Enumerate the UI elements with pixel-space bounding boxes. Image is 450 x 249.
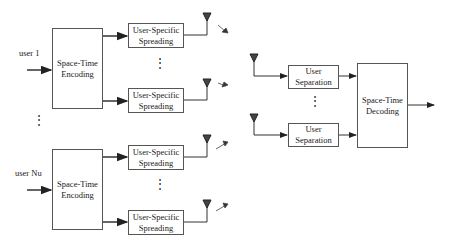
space-time-encoding-box-2: Space-Time Encoding: [52, 149, 103, 230]
ellipsis-dots: ⋮: [154, 56, 166, 71]
antenna-icons: [203, 13, 258, 208]
ellipsis-dots-users: ⋮: [33, 113, 45, 128]
ellipsis-dots: ⋮: [154, 177, 166, 192]
user-specific-spreading-box-2a: User-Specific Spreading: [128, 145, 184, 170]
user-specific-spreading-box-1b: User-Specific Spreading: [128, 88, 184, 113]
user-1-label: user 1: [19, 48, 40, 58]
space-time-encoding-box-1: Space-Time Encoding: [52, 28, 103, 109]
ellipsis-dots: ⋮: [309, 94, 321, 109]
user-separation-box-2: User Separation: [288, 123, 339, 147]
user-nu-label: user Nu: [15, 168, 42, 178]
user-specific-spreading-box-1a: User-Specific Spreading: [128, 23, 184, 48]
space-time-decoding-box: Space-Time Decoding: [357, 63, 408, 148]
user-specific-spreading-box-2b: User-Specific Spreading: [128, 210, 184, 235]
user-separation-box-1: User Separation: [288, 65, 339, 89]
